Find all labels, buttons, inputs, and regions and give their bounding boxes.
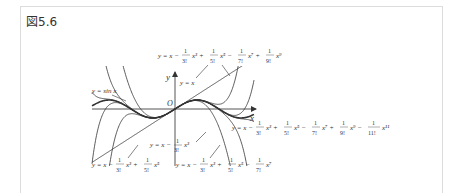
svg-text:5!: 5! [228,167,233,173]
svg-text:1: 1 [258,120,261,126]
svg-text:x¹¹: x¹¹ [381,124,389,132]
svg-text:1: 1 [202,157,205,163]
svg-text:y = x −: y = x − [175,161,197,169]
svg-text:3!: 3! [174,147,179,153]
svg-text:3!: 3! [182,58,187,64]
svg-text:x⁹: x⁹ [275,52,282,60]
svg-text:5!: 5! [210,58,215,64]
svg-text:3!: 3! [200,167,205,173]
label-sin: y = sin x [91,87,117,95]
label-T1: y = x [179,79,195,87]
svg-text:1: 1 [342,120,345,126]
svg-text:3!: 3! [256,130,261,136]
svg-text:7!: 7! [312,130,317,136]
svg-text:1: 1 [372,120,375,126]
svg-text:1: 1 [212,48,215,54]
label-T3: y = x − 1 3! x³ [149,138,190,153]
svg-text:x⁵: x⁵ [153,161,160,169]
svg-text:1: 1 [258,157,261,163]
svg-text:x⁵ −: x⁵ − [293,124,306,132]
y-axis-label: y [165,72,170,82]
svg-text:9!: 9! [340,130,345,136]
origin-label: O [167,99,173,108]
svg-text:x⁷ +: x⁷ + [321,124,334,132]
svg-text:9!: 9! [266,58,271,64]
label-T11: y = x − 1 3! x³ + 1 5! x⁵ − 1 7! x⁷ + 1 … [231,120,389,136]
svg-text:11!: 11! [368,130,376,136]
svg-text:7!: 7! [256,167,261,173]
svg-text:1: 1 [230,157,233,163]
label-T9: y = x − 1 3! x³ + 1 5! x⁵ − 1 7! x⁷ + 1 … [157,48,282,64]
svg-text:y = sin x: y = sin x [91,87,117,95]
svg-text:y = x −: y = x − [231,124,253,132]
svg-text:x³ +: x³ + [125,161,138,169]
svg-text:1: 1 [314,120,317,126]
svg-text:1: 1 [268,48,271,54]
svg-text:y = x −: y = x − [149,141,171,149]
x-axis-label: x [249,113,254,123]
svg-text:1: 1 [176,138,179,144]
svg-text:x³ +: x³ + [191,52,204,60]
svg-text:x⁵ −: x⁵ − [219,52,232,60]
svg-text:7!: 7! [238,58,243,64]
taylor-series-plot: x y O y = sin x y = x y = x − 1 3! x³ y … [0,0,464,193]
svg-text:1: 1 [146,157,149,163]
svg-text:x⁷ +: x⁷ + [247,52,260,60]
svg-text:y = x: y = x [179,79,195,87]
svg-text:1: 1 [286,120,289,126]
label-T5: y = x − 1 3! x³ + 1 5! x⁵ [91,157,160,173]
svg-text:x⁵ −: x⁵ − [237,161,250,169]
svg-text:x³: x³ [183,141,190,149]
svg-text:y = x −: y = x − [157,52,179,60]
svg-text:5!: 5! [144,167,149,173]
svg-text:1: 1 [240,48,243,54]
svg-text:x³ +: x³ + [209,161,222,169]
svg-text:x⁷: x⁷ [265,161,272,169]
svg-text:1: 1 [184,48,187,54]
svg-text:3!: 3! [116,167,121,173]
svg-text:5!: 5! [284,130,289,136]
label-T7: y = x − 1 3! x³ + 1 5! x⁵ − 1 7! x⁷ [175,157,272,173]
svg-text:x⁹ −: x⁹ − [349,124,362,132]
svg-text:y = x −: y = x − [91,161,113,169]
svg-text:x³ +: x³ + [265,124,278,132]
svg-text:1: 1 [118,157,121,163]
